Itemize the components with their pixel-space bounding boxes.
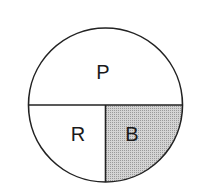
region-label-p: P — [96, 61, 109, 83]
region-b-shading — [106, 105, 186, 185]
region-label-b: B — [125, 123, 138, 145]
region-label-r: R — [71, 123, 85, 145]
partitioned-circle-diagram: P R B — [0, 0, 197, 194]
